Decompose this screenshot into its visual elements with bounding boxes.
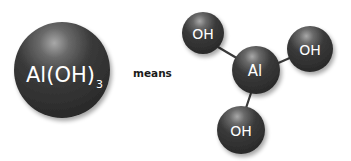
oh-label-bottom: OH bbox=[230, 123, 252, 139]
oh-sphere-bottom: OH bbox=[217, 106, 265, 154]
oh-sphere-right: OH bbox=[287, 26, 333, 72]
formula-sphere: Al(OH) 3 bbox=[14, 22, 110, 118]
bond-bottom bbox=[246, 93, 251, 108]
oh-label-right: OH bbox=[299, 42, 321, 58]
formula-subscript: 3 bbox=[96, 78, 103, 91]
oh-label-top-left: OH bbox=[192, 26, 214, 42]
aluminum-hydroxide-diagram: Al(OH) 3 means OH OH Al OH bbox=[0, 0, 351, 161]
al-label: Al bbox=[248, 62, 262, 80]
al-sphere: Al bbox=[232, 46, 280, 94]
diagram-canvas: Al(OH) 3 means OH OH Al OH bbox=[0, 0, 351, 161]
oh-sphere-top-left: OH bbox=[182, 12, 224, 54]
means-label: means bbox=[133, 67, 172, 79]
formula-main: Al(OH) bbox=[26, 63, 95, 87]
